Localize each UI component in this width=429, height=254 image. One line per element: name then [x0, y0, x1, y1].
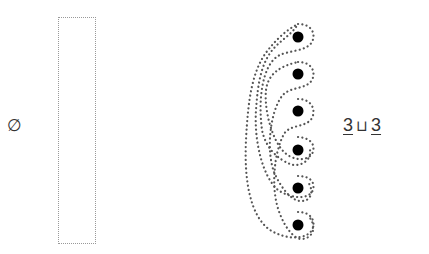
right-operand: 3 [371, 115, 381, 135]
loop-point-3 [274, 99, 313, 239]
loop-point-2 [270, 62, 314, 201]
point-5 [293, 183, 304, 194]
loop-point-4 [266, 62, 314, 159]
point-6 [293, 220, 304, 231]
point-1 [293, 32, 304, 43]
point-4 [293, 145, 304, 156]
point-2 [293, 69, 304, 80]
loop-point-5 [256, 24, 314, 197]
loop-point-1 [261, 24, 314, 165]
disjoint-union-operator: ⊔ [356, 117, 368, 134]
disjoint-union-label: 3⊔3 [343, 116, 381, 134]
left-operand: 3 [343, 115, 353, 135]
point-3 [293, 106, 304, 117]
